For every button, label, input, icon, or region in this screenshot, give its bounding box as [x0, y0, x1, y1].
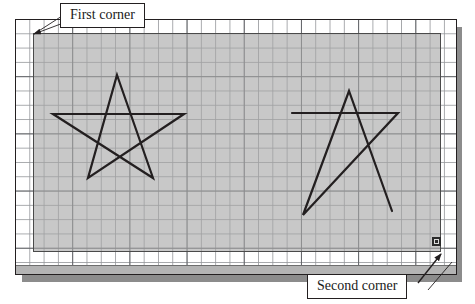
callout-second-corner-label: Second corner — [317, 278, 397, 293]
crossing-selection-window[interactable] — [33, 33, 441, 252]
callout-second-corner: Second corner — [307, 274, 407, 299]
screenshot-root: First corner Second corner — [0, 0, 475, 304]
corner-grip[interactable] — [432, 237, 441, 246]
callout-first-corner-label: First corner — [70, 7, 135, 22]
frame-bottom-ledge — [16, 265, 456, 274]
callout-first-corner: First corner — [60, 3, 145, 28]
